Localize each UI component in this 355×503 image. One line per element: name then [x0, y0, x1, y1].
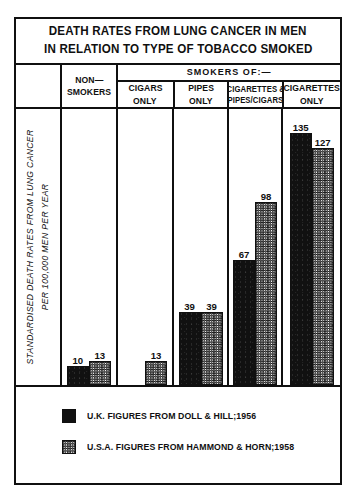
- bar-slot-usa: 39: [201, 312, 223, 385]
- cigarettes-only-label-line-1: CIGARETTES: [284, 82, 340, 94]
- bar-value-usa-pipes-only: 39: [206, 301, 216, 312]
- bar-uk-cigarettes-and-pipes-cigars[interactable]: 67: [233, 260, 255, 385]
- smokers-header-group: SMOKERS OF:— CIGARS ONLY PIPES ONLY CIGA…: [118, 65, 340, 107]
- column-header-cigarettes-only: CIGARETTES ONLY: [284, 82, 340, 107]
- bar-pair: 135 127: [283, 109, 340, 385]
- bar-value-usa-cigars-only: 13: [151, 350, 161, 361]
- non-smokers-label-line-2: SMOKERS: [67, 86, 111, 98]
- plot-area: STANDARDISED DEATH RATES FROM LUNG CANCE…: [16, 109, 340, 387]
- smokers-of-label: SMOKERS OF:—: [187, 66, 272, 79]
- cigars-only-label-line-2: ONLY: [133, 95, 157, 107]
- bar-pair: 13: [118, 109, 173, 385]
- legend-item-uk: U.K. FIGURES FROM DOLL & HILL;1956: [62, 409, 340, 423]
- y-axis-label-line-1: STANDARDISED DEATH RATES FROM LUNG CANCE…: [23, 130, 38, 365]
- bar-group-cigarettes-and-pipes-cigars: 67 98: [229, 109, 284, 385]
- bar-slot-uk: 135: [290, 133, 312, 385]
- bar-slot-usa: 98: [255, 202, 277, 385]
- bar-group-non-smokers: 10 13: [62, 109, 118, 385]
- legend-item-usa: U.S.A. FIGURES FROM HAMMOND & HORN;1958: [62, 440, 340, 454]
- bar-value-uk-non-smokers: 10: [73, 355, 83, 366]
- bar-usa-cigarettes-only[interactable]: 127: [312, 148, 334, 385]
- cigars-only-label-line-1: CIGARS: [128, 82, 162, 94]
- cigarettes-pipes-label-line-2: PIPES/CIGARS: [229, 95, 283, 106]
- bar-value-uk-pipes-only: 39: [184, 301, 194, 312]
- legend-label-usa: U.S.A. FIGURES FROM HAMMOND & HORN;1958: [87, 442, 294, 452]
- smokers-of-spanning-header: SMOKERS OF:—: [118, 65, 340, 82]
- column-header-non-smokers: NON— SMOKERS: [62, 65, 118, 107]
- bar-value-usa-cigarettes-only: 127: [315, 137, 331, 148]
- bar-value-uk-cigarettes-only: 135: [293, 122, 309, 133]
- bar-uk-pipes-only[interactable]: 39: [179, 312, 201, 385]
- bar-slot-usa: 127: [312, 148, 334, 385]
- y-axis-label-line-2: PER 100,000 MEN PER YEAR: [38, 130, 53, 365]
- y-axis-label-cell: STANDARDISED DEATH RATES FROM LUNG CANCE…: [16, 109, 62, 385]
- bar-usa-pipes-only[interactable]: 39: [201, 312, 223, 385]
- page-title-line-2: IN RELATION TO TYPE OF TOBACCO SMOKED: [44, 41, 312, 59]
- bar-usa-cigars-only[interactable]: 13: [145, 361, 167, 385]
- legend-label-uk: U.K. FIGURES FROM DOLL & HILL;1956: [87, 411, 256, 421]
- column-header-cigars-only: CIGARS ONLY: [118, 82, 175, 107]
- cigarettes-only-label-line-2: ONLY: [300, 95, 324, 107]
- bar-slot-usa: 13: [145, 361, 167, 385]
- bar-uk-cigarettes-only[interactable]: 135: [290, 133, 312, 385]
- bar-uk-non-smokers[interactable]: 10: [67, 366, 89, 385]
- chart-title-block: DEATH RATES FROM LUNG CANCER IN MEN IN R…: [16, 19, 340, 65]
- bar-group-pipes-only: 39 39: [174, 109, 229, 385]
- pipes-only-label-line-1: PIPES: [188, 82, 214, 94]
- bar-slot-uk: 10: [67, 366, 89, 385]
- bar-usa-cigarettes-and-pipes-cigars[interactable]: 98: [255, 202, 277, 385]
- chart-legend: U.K. FIGURES FROM DOLL & HILL;1956 U.S.A…: [16, 387, 340, 483]
- page-title-line-1: DEATH RATES FROM LUNG CANCER IN MEN: [49, 23, 307, 41]
- bar-slot-usa: 13: [89, 361, 111, 385]
- non-smokers-label-line-1: NON—: [75, 74, 103, 86]
- bar-value-usa-non-smokers: 13: [95, 350, 105, 361]
- bar-slot-uk: 67: [233, 260, 255, 385]
- bar-pair: 67 98: [229, 109, 282, 385]
- crosshatch-swatch-icon: [62, 440, 76, 454]
- smokers-subheader-row: CIGARS ONLY PIPES ONLY CIGARETTES & PIPE…: [118, 82, 340, 107]
- bar-slot-uk: 39: [179, 312, 201, 385]
- axis-header-spacer: [16, 65, 62, 107]
- bar-columns: 10 13: [62, 109, 340, 385]
- bar-group-cigars-only: 13: [118, 109, 175, 385]
- bar-group-cigarettes-only: 135 127: [283, 109, 340, 385]
- bar-value-usa-cigarettes-and-pipes-cigars: 98: [261, 191, 271, 202]
- bar-pair: 39 39: [174, 109, 227, 385]
- solid-black-swatch-icon: [62, 409, 76, 423]
- bar-usa-non-smokers[interactable]: 13: [89, 361, 111, 385]
- column-header-band: NON— SMOKERS SMOKERS OF:— CIGARS ONLY PI…: [16, 65, 340, 109]
- chart-figure: DEATH RATES FROM LUNG CANCER IN MEN IN R…: [14, 17, 342, 485]
- bar-value-uk-cigarettes-and-pipes-cigars: 67: [239, 249, 249, 260]
- bar-pair: 10 13: [62, 109, 116, 385]
- pipes-only-label-line-2: ONLY: [189, 95, 213, 107]
- cigarettes-pipes-label-line-1: CIGARETTES &: [229, 84, 284, 95]
- y-axis-label: STANDARDISED DEATH RATES FROM LUNG CANCE…: [23, 130, 53, 365]
- column-header-cigarettes-and-pipes-cigars: CIGARETTES & PIPES/CIGARS: [229, 82, 284, 107]
- column-header-pipes-only: PIPES ONLY: [175, 82, 230, 107]
